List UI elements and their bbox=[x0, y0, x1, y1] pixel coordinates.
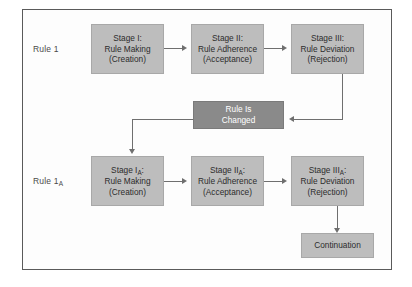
connector-rule-changed-down bbox=[132, 119, 133, 150]
arrowhead-to-rule-changed bbox=[289, 116, 294, 122]
node-stage-2-line2: Rule Adherence bbox=[198, 44, 257, 55]
connector-stage2a-to-stage3a bbox=[264, 181, 283, 182]
node-rule-is-changed-line1: Rule Is bbox=[226, 104, 252, 115]
diagram-frame: Rule 1 Rule 1A Stage I: Rule Making ( bbox=[22, 9, 392, 270]
row-label-rule-1-text: Rule 1 bbox=[33, 44, 59, 54]
node-stage-1a-line2: Rule Making bbox=[104, 176, 150, 187]
arrowhead-stage1a-to-stage2a bbox=[182, 178, 187, 184]
node-stage-3-line2: Rule Deviation bbox=[301, 44, 355, 55]
node-stage-1a-line1: Stage IA: bbox=[111, 165, 144, 177]
node-continuation-label: Continuation bbox=[314, 240, 361, 251]
connector-stage3-down bbox=[342, 74, 343, 120]
node-stage-2a-subscript: A bbox=[239, 169, 243, 176]
row-label-rule-1: Rule 1 bbox=[33, 44, 59, 54]
connector-stage1a-to-stage2a bbox=[164, 181, 183, 182]
node-stage-3a[interactable]: Stage IIIA: Rule Deviation (Rejection) bbox=[291, 156, 364, 206]
connector-stage1-to-stage2 bbox=[164, 48, 183, 49]
node-stage-2a[interactable]: Stage IIA: Rule Adherence (Acceptance) bbox=[191, 156, 264, 206]
node-rule-is-changed-line2: Changed bbox=[222, 115, 256, 126]
connector-stage3a-to-continuation bbox=[337, 206, 338, 229]
row-label-rule-1a-subscript: A bbox=[59, 180, 64, 187]
node-stage-2a-line1: Stage IIA: bbox=[210, 165, 245, 177]
node-stage-3[interactable]: Stage III: Rule Deviation (Rejection) bbox=[291, 24, 364, 74]
node-stage-2[interactable]: Stage II: Rule Adherence (Acceptance) bbox=[191, 24, 264, 74]
node-stage-1[interactable]: Stage I: Rule Making (Creation) bbox=[91, 24, 164, 74]
diagram-canvas: Rule 1 Rule 1A Stage I: Rule Making ( bbox=[0, 0, 412, 287]
connector-rule-changed-left bbox=[132, 119, 194, 120]
row-label-rule-1a-text: Rule 1 bbox=[33, 176, 59, 186]
node-stage-1a-line3: (Creation) bbox=[109, 187, 146, 198]
row-label-rule-1a: Rule 1A bbox=[33, 176, 63, 186]
arrowhead-stage2a-to-stage3a bbox=[282, 178, 287, 184]
connector-stage2-to-stage3 bbox=[264, 48, 283, 49]
node-stage-3-line1: Stage III: bbox=[311, 33, 344, 44]
node-stage-1a-subscript: A bbox=[137, 169, 141, 176]
arrowhead-stage2-to-stage3 bbox=[282, 45, 287, 51]
node-stage-2a-line3: (Acceptance) bbox=[203, 187, 252, 198]
connector-stage3-to-rule-changed bbox=[294, 119, 343, 120]
node-rule-is-changed[interactable]: Rule Is Changed bbox=[193, 101, 284, 129]
node-continuation[interactable]: Continuation bbox=[301, 233, 374, 258]
node-stage-2-line1: Stage II: bbox=[212, 33, 243, 44]
arrowhead-stage1-to-stage2 bbox=[182, 45, 187, 51]
node-stage-3a-line3: (Rejection) bbox=[307, 187, 347, 198]
node-stage-3a-line1: Stage IIIA: bbox=[309, 165, 346, 177]
arrowhead-to-stage1a bbox=[129, 149, 135, 154]
node-stage-3a-line2: Rule Deviation bbox=[301, 176, 355, 187]
node-stage-2a-line2: Rule Adherence bbox=[198, 176, 257, 187]
node-stage-2-line3: (Acceptance) bbox=[203, 54, 252, 65]
node-stage-3a-subscript: A bbox=[340, 169, 344, 176]
node-stage-1-line2: Rule Making bbox=[104, 44, 150, 55]
node-stage-1-line3: (Creation) bbox=[109, 54, 146, 65]
node-stage-1-line1: Stage I: bbox=[113, 33, 142, 44]
node-stage-3-line3: (Rejection) bbox=[307, 54, 347, 65]
node-stage-1a[interactable]: Stage IA: Rule Making (Creation) bbox=[91, 156, 164, 206]
